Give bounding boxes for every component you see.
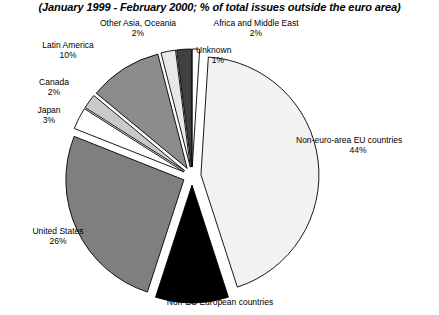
slice-label-canada-name: Canada — [39, 77, 69, 87]
slice-label-africa-and-middle-east-name: Africa and Middle East — [213, 18, 298, 28]
slice-label-unknown-name: Unknown — [196, 45, 231, 55]
slice-label-latin-america: Latin America 10% — [20, 40, 116, 60]
slice-label-other-asia-oceania: Other Asia, Oceania 2% — [78, 18, 198, 38]
pie-slice-unknown[interactable] — [192, 49, 199, 167]
slice-label-other-asia-oceania-pct: 2% — [78, 28, 198, 38]
slice-label-canada: Canada 2% — [16, 77, 92, 97]
pie-slice-non-euro-area-eu-countries[interactable] — [201, 57, 319, 287]
slice-label-africa-and-middle-east-pct: 2% — [196, 28, 316, 38]
slice-label-united-states-pct: 26% — [2, 236, 114, 246]
slice-label-africa-and-middle-east: Africa and Middle East 2% — [196, 18, 316, 38]
pie-chart-figure: (January 1999 - February 2000; % of tota… — [0, 0, 439, 315]
slice-label-non-eu-european-countries: Non-EU European countries — [128, 297, 312, 307]
slice-label-other-asia-oceania-name: Other Asia, Oceania — [100, 18, 176, 28]
slice-label-non-euro-area-eu-countries-name: Non-euro-area EU countries — [296, 135, 402, 145]
slice-label-united-states-name: United States — [32, 226, 83, 236]
slice-label-united-states: United States 26% — [2, 226, 114, 246]
slice-label-canada-pct: 2% — [16, 87, 92, 97]
slice-label-non-euro-area-eu-countries-pct: 44% — [296, 145, 420, 155]
slice-label-unknown: Unknown 1% — [196, 45, 256, 65]
slice-label-latin-america-name: Latin America — [42, 40, 94, 50]
slice-label-non-euro-area-eu-countries: Non-euro-area EU countries 44% — [296, 135, 436, 155]
slice-label-latin-america-pct: 10% — [20, 50, 116, 60]
slice-label-japan-name: Japan — [37, 105, 60, 115]
slice-label-unknown-pct: 1% — [196, 55, 240, 65]
slice-label-non-eu-european-countries-name: Non-EU European countries — [167, 297, 273, 307]
slice-label-japan: Japan 3% — [14, 105, 84, 125]
slice-label-japan-pct: 3% — [14, 115, 84, 125]
